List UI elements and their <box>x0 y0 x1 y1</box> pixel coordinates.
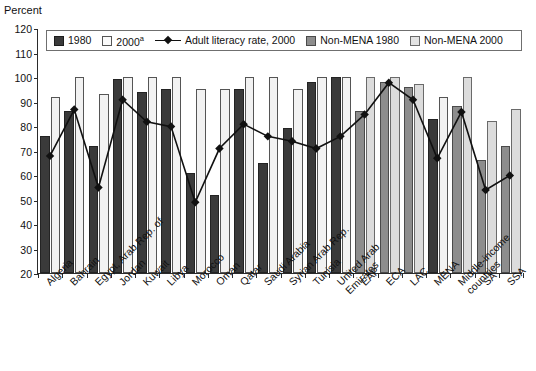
x-axis-tick-mark <box>232 273 233 278</box>
legend-item-label: 2000a <box>116 33 144 48</box>
literacy-data-point <box>506 171 514 179</box>
literacy-data-point <box>264 132 272 140</box>
x-axis-tick-mark <box>208 273 209 278</box>
y-axis-tick-label: 70 <box>2 147 38 157</box>
literacy-line-path <box>50 83 510 203</box>
literacy-data-point <box>312 144 320 152</box>
x-axis-tick-mark <box>256 273 257 278</box>
x-axis-tick-mark <box>475 273 476 278</box>
literacy-data-point <box>433 154 441 162</box>
legend-item-label: 1980 <box>68 35 91 46</box>
y-axis-tick-label: 90 <box>2 98 38 108</box>
legend-item-light[interactable]: 2000a <box>102 33 144 48</box>
x-axis-tick-mark <box>329 273 330 278</box>
y-axis-tick-label: 120 <box>2 24 38 34</box>
y-axis-tick-label: 100 <box>2 73 38 83</box>
legend-item-graylight[interactable]: Non-MENA 2000 <box>410 35 503 46</box>
x-axis-tick-mark <box>402 273 403 278</box>
x-axis-tick-mark <box>426 273 427 278</box>
legend-item-label: Non-MENA 1980 <box>320 35 399 46</box>
y-axis-unit-label: Percent <box>4 4 42 16</box>
literacy-data-point <box>457 108 465 116</box>
x-axis-tick-mark <box>523 273 524 278</box>
literacy-data-point <box>481 186 489 194</box>
y-axis-tick-label: 110 <box>2 49 38 59</box>
x-axis-tick-mark <box>378 273 379 278</box>
literacy-data-point <box>46 152 54 160</box>
x-axis-tick-mark <box>135 273 136 278</box>
x-axis-tick-mark <box>111 273 112 278</box>
x-axis-tick-mark <box>159 273 160 278</box>
legend-item-line[interactable]: Adult literacy rate, 2000 <box>155 35 295 46</box>
legend-swatch-icon <box>102 36 112 46</box>
legend-swatch-icon <box>54 36 64 46</box>
x-axis-tick-mark <box>281 273 282 278</box>
legend-item-dark[interactable]: 1980 <box>54 35 91 46</box>
literacy-data-point <box>70 105 78 113</box>
x-axis-tick-mark <box>87 273 88 278</box>
x-axis-tick-mark <box>62 273 63 278</box>
adult-literacy-line-series <box>38 29 522 273</box>
legend-item-graydark[interactable]: Non-MENA 1980 <box>306 35 399 46</box>
legend-item-label: Non-MENA 2000 <box>424 35 503 46</box>
literacy-data-point <box>94 183 102 191</box>
y-axis-tick-label: 30 <box>2 245 38 255</box>
plot-area: 2030405060708090100110120 <box>37 29 522 274</box>
literacy-data-point <box>288 137 296 145</box>
legend-footnote-marker: a <box>140 34 144 43</box>
legend-swatch-icon <box>410 36 420 46</box>
y-axis-tick-label: 60 <box>2 171 38 181</box>
legend-swatch-icon <box>306 36 316 46</box>
y-axis-tick-label: 40 <box>2 220 38 230</box>
x-axis-tick-mark <box>353 273 354 278</box>
x-axis-tick-mark <box>305 273 306 278</box>
legend-line-marker-icon <box>155 36 181 46</box>
literacy-data-point <box>191 198 199 206</box>
x-axis-tick-mark <box>184 273 185 278</box>
literacy-data-point <box>167 122 175 130</box>
x-axis-tick-mark <box>499 273 500 278</box>
legend-item-label: Adult literacy rate, 2000 <box>185 35 295 46</box>
y-axis-tick-label: 50 <box>2 196 38 206</box>
x-axis-tick-mark <box>38 273 39 278</box>
y-axis-tick-label: 20 <box>2 269 38 279</box>
chart-container: Percent 2030405060708090100110120 198020… <box>0 0 536 371</box>
chart-legend: 19802000aAdult literacy rate, 2000Non-ME… <box>46 30 522 51</box>
x-axis-tick-mark <box>450 273 451 278</box>
y-axis-tick-label: 80 <box>2 122 38 132</box>
